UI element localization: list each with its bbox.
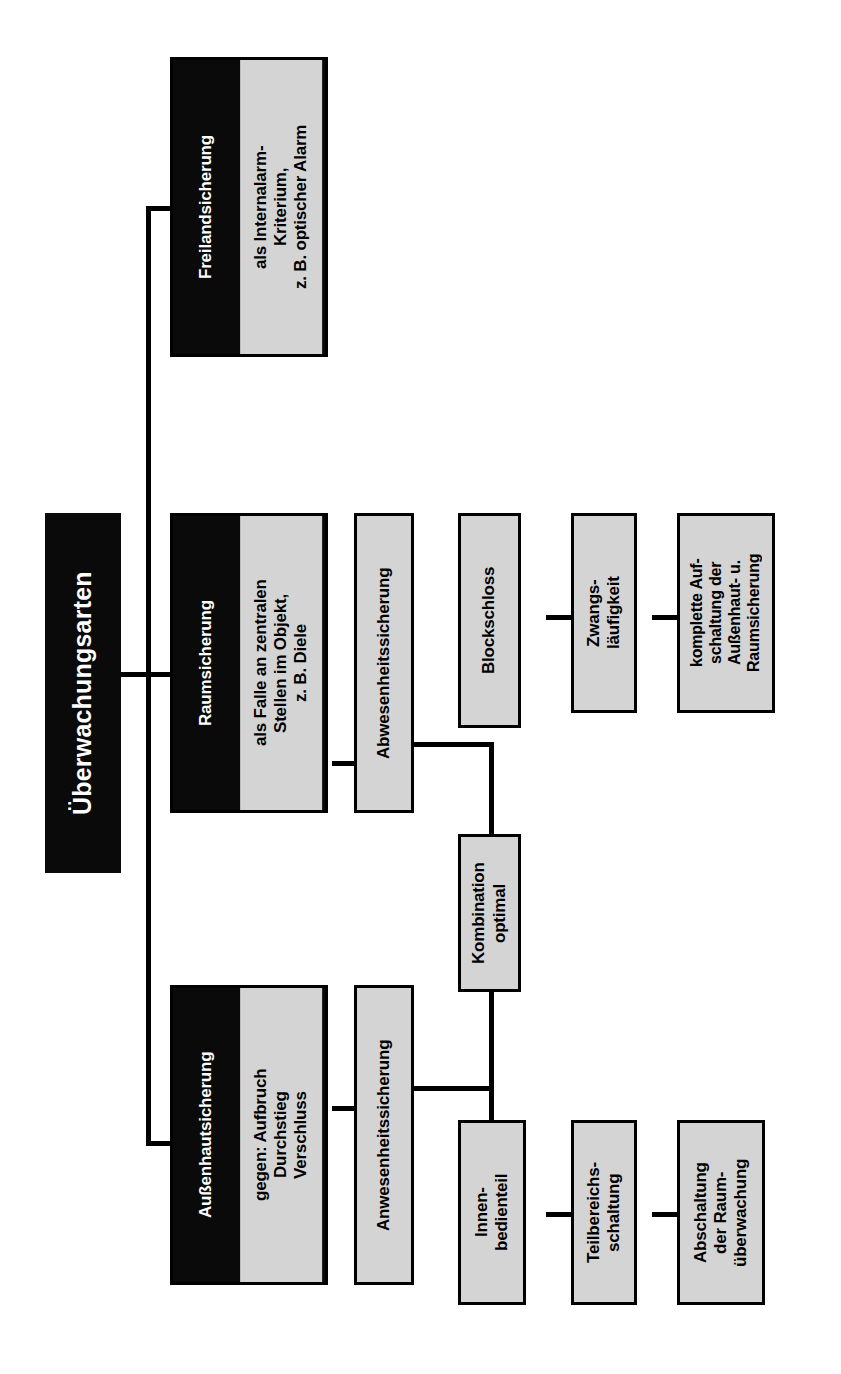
node-blockschloss-label: Blockschloss xyxy=(461,516,518,725)
node-freilandsicherung-title: Freilandsicherung xyxy=(173,60,240,354)
connector-abwesenheit-spine xyxy=(414,742,492,747)
node-abschaltung-raumueberwachung[interactable]: Abschaltung der Raum- überwachung xyxy=(677,1120,765,1305)
connector-blockschloss-zwangslaeufigkeit xyxy=(546,615,574,620)
node-anwesenheitssicherung-label: Anwesenheitssicherung xyxy=(357,988,411,1282)
node-aussenhautsicherung-detail: gegen: Aufbruch Durchstieg Verschluss xyxy=(240,988,325,1282)
node-zwangslaeufigkeit-label: Zwangs- läufigkeit xyxy=(574,516,634,710)
overwachungsarten-diagram: Überwachungsarten Freilandsicherung als … xyxy=(0,0,841,1374)
node-kombination-optimal[interactable]: Kombination optimal xyxy=(458,834,521,992)
connector-teilbereich-abschaltung xyxy=(652,1212,680,1217)
node-abschaltung-raumueberwachung-label: Abschaltung der Raum- überwachung xyxy=(680,1123,762,1302)
node-anwesenheitssicherung[interactable]: Anwesenheitssicherung xyxy=(354,985,414,1285)
node-innenbedienteil-label: Innen- bedienteil xyxy=(461,1123,523,1302)
node-raumsicherung-title: Raumsicherung xyxy=(173,516,240,810)
node-raumsicherung[interactable]: Raumsicherung als Falle an zentralen Ste… xyxy=(170,513,328,813)
node-aussenhautsicherung-title: Außenhautsicherung xyxy=(173,988,240,1282)
node-freilandsicherung-detail: als Internalarm- Kriterium, z. B. optisc… xyxy=(240,60,325,354)
node-teilbereichsschaltung-label: Teilbereichs- schaltung xyxy=(574,1123,634,1302)
node-abwesenheitssicherung-label: Abwesenheitssicherung xyxy=(357,516,411,810)
node-zwangslaeufigkeit[interactable]: Zwangs- läufigkeit xyxy=(571,513,637,713)
connector-zwangslaeufigkeit-aufschaltung xyxy=(652,615,680,620)
node-kombination-optimal-label: Kombination optimal xyxy=(461,837,518,989)
node-raumsicherung-detail: als Falle an zentralen Stellen im Objekt… xyxy=(240,516,325,810)
node-root-label: Überwachungsarten xyxy=(48,516,118,870)
node-abwesenheitssicherung[interactable]: Abwesenheitssicherung xyxy=(354,513,414,813)
node-freilandsicherung[interactable]: Freilandsicherung als Internalarm- Krite… xyxy=(170,57,328,357)
node-komplette-aufschaltung-label: komplette Auf- schaltung der Außenhaut- … xyxy=(680,516,772,710)
node-teilbereichsschaltung[interactable]: Teilbereichs- schaltung xyxy=(571,1120,637,1305)
node-innenbedienteil[interactable]: Innen- bedienteil xyxy=(458,1120,526,1305)
connector-anwesenheit-spine xyxy=(414,1086,492,1091)
node-blockschloss[interactable]: Blockschloss xyxy=(458,513,521,728)
node-aussenhautsicherung[interactable]: Außenhautsicherung gegen: Aufbruch Durch… xyxy=(170,985,328,1285)
node-root-ueberwachungsarten[interactable]: Überwachungsarten xyxy=(45,513,121,873)
connector-innenbedienteil-teilbereich xyxy=(546,1212,574,1217)
node-komplette-aufschaltung[interactable]: komplette Auf- schaltung der Außenhaut- … xyxy=(677,513,775,713)
